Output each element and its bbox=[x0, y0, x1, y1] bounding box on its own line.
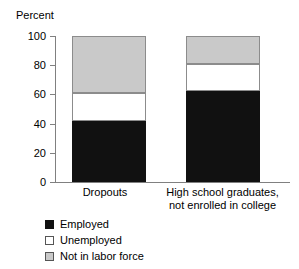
y-tick-label: 60 bbox=[12, 89, 46, 100]
bar-high-school-graduates bbox=[186, 36, 260, 182]
legend-label-employed: Employed bbox=[60, 218, 109, 230]
stacked-bar-chart: Percent 020406080100 Dropouts High schoo… bbox=[0, 0, 299, 269]
bar-segment-unemployed bbox=[72, 93, 146, 121]
y-tick-label: 20 bbox=[12, 148, 46, 159]
x-axis-line bbox=[55, 182, 290, 183]
category-label-line: High school graduates, bbox=[146, 186, 299, 199]
legend-swatch-unemployed-icon bbox=[45, 236, 54, 245]
chart-legend: Employed Unemployed Not in labor force bbox=[45, 216, 245, 264]
y-tick-label: 100 bbox=[12, 31, 46, 42]
legend-swatch-employed-icon bbox=[45, 220, 54, 229]
bar-dropouts bbox=[72, 36, 146, 182]
bar-segment-employed bbox=[186, 91, 260, 182]
y-axis-title: Percent bbox=[16, 9, 54, 21]
y-tick-label: 40 bbox=[12, 119, 46, 130]
bar-segment-employed bbox=[72, 121, 146, 182]
legend-label-not-in-labor-force: Not in labor force bbox=[60, 250, 144, 262]
legend-swatch-not-in-labor-force-icon bbox=[45, 252, 54, 261]
plot-area bbox=[55, 36, 290, 182]
y-tick-mark bbox=[50, 182, 55, 183]
bar-segment-unemployed bbox=[186, 64, 260, 92]
bar-segment-notinlabor bbox=[72, 36, 146, 93]
legend-label-unemployed: Unemployed bbox=[60, 234, 122, 246]
legend-item-employed: Employed bbox=[45, 216, 245, 232]
category-label-line: not enrolled in college bbox=[146, 199, 299, 212]
legend-item-not-in-labor-force: Not in labor force bbox=[45, 248, 245, 264]
category-label-high-school-graduates: High school graduates,not enrolled in co… bbox=[146, 186, 299, 212]
bar-segment-notinlabor bbox=[186, 36, 260, 64]
legend-item-unemployed: Unemployed bbox=[45, 232, 245, 248]
y-tick-label: 80 bbox=[12, 60, 46, 71]
